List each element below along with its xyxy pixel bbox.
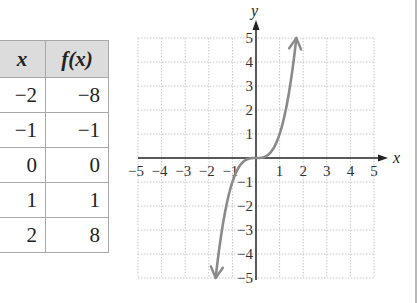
- y-tick-label: −1: [237, 174, 253, 190]
- x-tick-label: 2: [299, 163, 307, 179]
- x-tick-label: 4: [347, 163, 355, 179]
- y-tick-label: −2: [237, 198, 253, 214]
- cubic-function-graph: x y −5−4−3−2−112345 54321−1−2−3−4−5: [0, 0, 420, 303]
- x-axis-arrow-icon: [378, 155, 388, 162]
- axes: x y: [138, 2, 400, 280]
- x-tick-label: −5: [128, 163, 144, 179]
- x-tick-label: −3: [175, 163, 191, 179]
- x-tick-label: −4: [152, 163, 168, 179]
- x-tick-label: 3: [323, 163, 331, 179]
- y-tick-label: −3: [237, 222, 253, 238]
- y-tick-label: 2: [246, 102, 254, 118]
- x-tick-label: 5: [370, 163, 378, 179]
- x-axis-label: x: [392, 149, 400, 166]
- y-tick-label: 1: [246, 126, 254, 142]
- y-tick-label: −5: [237, 270, 253, 286]
- y-tick-label: 5: [246, 30, 254, 46]
- y-axis-label: y: [249, 2, 259, 20]
- y-axis-arrow-icon: [253, 20, 260, 30]
- y-tick-label: −4: [237, 246, 253, 262]
- page-divider: [415, 0, 417, 303]
- y-tick-label: 4: [246, 54, 254, 70]
- y-tick-label: 3: [246, 78, 254, 94]
- x-tick-label: −2: [199, 163, 215, 179]
- x-tick-label: 1: [276, 163, 284, 179]
